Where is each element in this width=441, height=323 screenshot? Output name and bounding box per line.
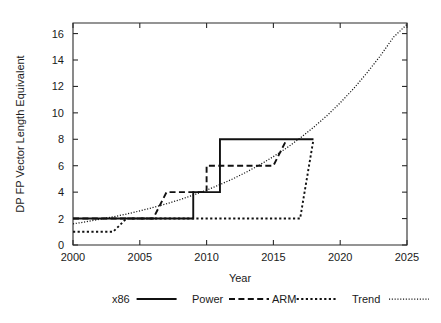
y-tick-label: 12 [52, 80, 64, 92]
x-tick-label: 2010 [194, 251, 218, 263]
series-line-power [73, 139, 287, 218]
plot-frame [73, 23, 407, 245]
x-tick-label: 2005 [128, 251, 152, 263]
series-line-trend [73, 24, 407, 224]
y-tick-label: 6 [58, 160, 64, 172]
y-tick-label: 2 [58, 213, 64, 225]
legend-label-power: Power [192, 293, 224, 305]
legend-label-x86: x86 [112, 293, 130, 305]
legend-label-trend: Trend [352, 293, 380, 305]
x-tick-label: 2020 [328, 251, 352, 263]
y-tick-label: 14 [52, 54, 64, 66]
x-tick-label: 2015 [261, 251, 285, 263]
x-tick-label: 2000 [61, 251, 85, 263]
x-axis-ticks: 200020052010201520202025 [61, 23, 419, 263]
legend-label-arm: ARM [272, 293, 296, 305]
x-tick-label: 2025 [395, 251, 419, 263]
series-line-x86 [73, 139, 313, 218]
chart-legend: x86PowerARMTrend [112, 293, 429, 305]
chart-figure: 0246810121416 200020052010201520202025 Y… [0, 0, 441, 323]
y-tick-label: 0 [58, 239, 64, 251]
y-tick-label: 4 [58, 186, 64, 198]
line-chart-plot: 0246810121416 200020052010201520202025 Y… [0, 0, 441, 323]
y-axis-title: DP FP Vector Length Equivalent [14, 55, 26, 212]
x-axis-title: Year [229, 272, 252, 284]
series-group [73, 24, 407, 231]
y-tick-label: 16 [52, 28, 64, 40]
y-tick-label: 8 [58, 133, 64, 145]
y-tick-label: 10 [52, 107, 64, 119]
